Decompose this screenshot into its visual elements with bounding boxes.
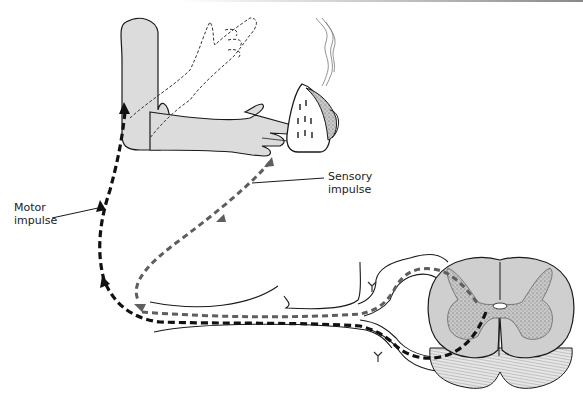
hot-iron [287, 84, 339, 152]
sensory-arrow-icon [264, 157, 274, 167]
sensory-impulse-path [136, 162, 478, 317]
spinal-cord-cross-section [428, 257, 574, 388]
diagram-canvas [0, 0, 583, 396]
sensory-label-line2: impulse [328, 183, 372, 196]
sensory-arrow-icon [216, 214, 226, 222]
motor-label-leader [52, 208, 98, 218]
arm [121, 18, 293, 156]
torso-outline [150, 262, 392, 348]
motor-impulse-label: Motor impulse [14, 201, 57, 227]
sensory-impulse-label: Sensory impulse [328, 170, 372, 196]
reflex-arc-diagram: Motor impulse Sensory impulse [0, 0, 583, 396]
motor-label-line1: Motor [14, 201, 57, 214]
motor-label-line2: impulse [14, 214, 57, 227]
sensory-label-line1: Sensory [328, 170, 372, 183]
steam [316, 18, 335, 86]
sensory-label-leader [252, 178, 324, 183]
motor-arrow-icon [96, 200, 106, 212]
